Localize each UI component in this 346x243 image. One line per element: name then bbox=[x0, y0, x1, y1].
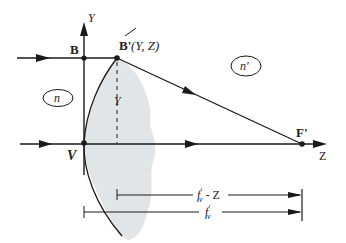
dim-short-label: f'v - Z bbox=[197, 187, 220, 204]
point-b-label: B bbox=[70, 42, 79, 57]
dim-short-arrow bbox=[288, 192, 302, 198]
point-b-prime-coords: (Y, Z) bbox=[131, 38, 159, 53]
surface-curve-upper-tick bbox=[125, 28, 136, 36]
medium-n-label: n bbox=[54, 91, 60, 105]
dim-long-arrow bbox=[288, 209, 302, 215]
focal-point-label: F' bbox=[296, 125, 308, 140]
focal-point-dot bbox=[299, 141, 305, 147]
axis-ray-arrow-left bbox=[39, 140, 52, 148]
point-b-prime-dot bbox=[114, 55, 120, 61]
z-axis-arrowhead bbox=[313, 140, 327, 148]
y-axis-label: Y bbox=[88, 11, 96, 25]
dim-long-label: f'v bbox=[205, 204, 211, 221]
incident-ray-arrow bbox=[36, 54, 50, 62]
point-b-prime-label: B' bbox=[119, 38, 131, 53]
vertex-dot bbox=[81, 140, 87, 146]
y-axis-arrowhead bbox=[80, 22, 88, 36]
lens-shading bbox=[84, 58, 155, 240]
axis-ray-arrow-middle bbox=[185, 140, 198, 148]
refracted-ray-arrow bbox=[182, 86, 196, 95]
z-axis-label: Z bbox=[319, 149, 326, 163]
optics-diagram: Y Z Y B B' (Y, Z) V F' n n' f'v - Z f'v bbox=[0, 0, 346, 243]
point-b-dot bbox=[81, 55, 86, 60]
vertex-label: V bbox=[67, 148, 78, 163]
medium-n-prime-label: n' bbox=[240, 59, 249, 73]
